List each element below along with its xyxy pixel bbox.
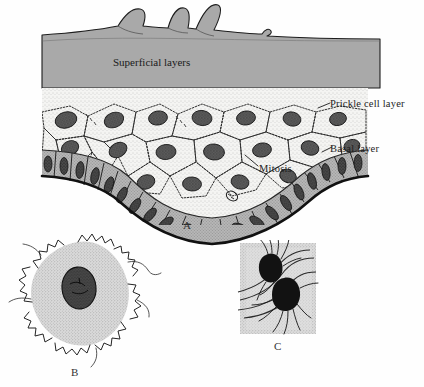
figure-canvas: Superficial layers Prickle cell layer Ba… — [0, 0, 424, 387]
diagram-svg — [0, 0, 424, 387]
panel-a-group — [42, 5, 380, 245]
panel-a-letter: A — [183, 219, 191, 231]
desmosome-plaque-lower — [272, 278, 300, 311]
basal-layer-label: Basal layer — [330, 143, 379, 154]
desmosome-plaque-upper — [259, 253, 283, 282]
panel-c-group — [238, 232, 318, 334]
prickle-cell-layer-label: Prickle cell layer — [330, 98, 405, 109]
panel-b-letter: B — [71, 366, 79, 378]
panel-b-group — [9, 234, 161, 367]
superficial-layer — [42, 5, 380, 88]
superficial-layers-label: Superficial layers — [113, 56, 190, 68]
mitosis-label: Mitosis — [259, 163, 292, 174]
panel-c-letter: C — [274, 340, 282, 352]
